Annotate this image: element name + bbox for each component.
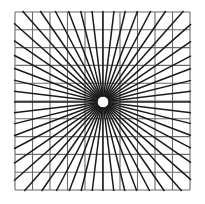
illusion-figure: Radial ray burst over square grid (Herin… [0, 0, 205, 204]
center-gap-disc [98, 97, 108, 107]
illusion-canvas: Radial ray burst over square grid (Herin… [0, 0, 205, 204]
center-gap-layer [98, 97, 108, 107]
